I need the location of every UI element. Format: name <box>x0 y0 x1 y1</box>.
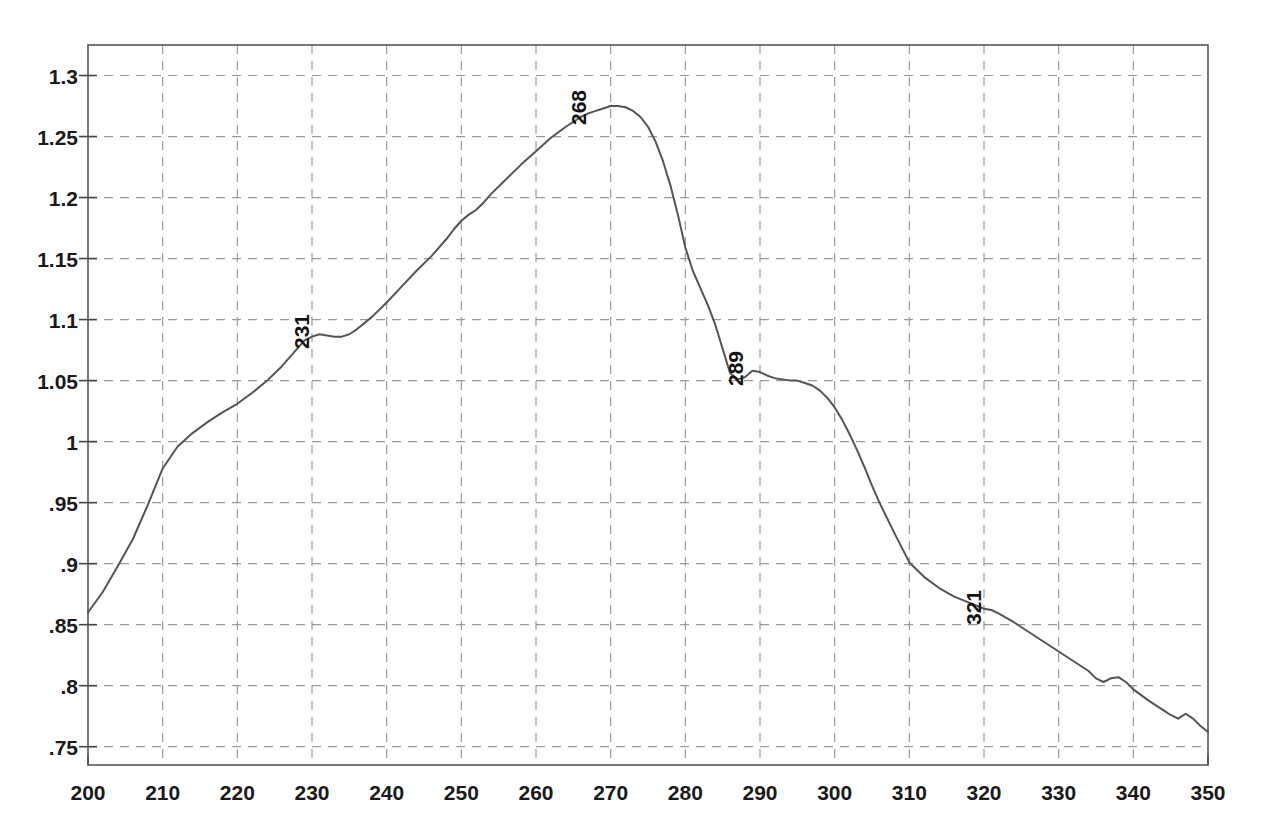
y-tick-label: .8 <box>10 675 78 696</box>
x-tick-label: 250 <box>444 782 479 803</box>
y-tick-label: 1.2 <box>10 187 78 208</box>
x-tick-label: 300 <box>817 782 852 803</box>
peak-annotation-label: 231 <box>291 314 312 349</box>
y-tick-label: .95 <box>10 492 78 513</box>
x-tick-label: 350 <box>1190 782 1225 803</box>
data-line-absorbance <box>88 106 1208 732</box>
x-tick-label: 290 <box>742 782 777 803</box>
x-tick-label: 220 <box>220 782 255 803</box>
peak-annotation-label: 268 <box>568 90 589 125</box>
plot-frame <box>88 45 1208 765</box>
y-tick-label: 1.25 <box>10 126 78 147</box>
x-tick-label: 310 <box>892 782 927 803</box>
y-tick-label: 1 <box>10 431 78 452</box>
y-tick-label: 1.15 <box>10 248 78 269</box>
y-tick-label: 1.05 <box>10 370 78 391</box>
x-tick-label: 240 <box>369 782 404 803</box>
gridlines-horizontal <box>88 76 1208 747</box>
line-chart-plot <box>0 0 1267 840</box>
y-tick-label: .75 <box>10 736 78 757</box>
peak-annotation-label: 321 <box>963 590 984 625</box>
x-tick-label: 330 <box>1041 782 1076 803</box>
y-tick-label: .9 <box>10 553 78 574</box>
peak-annotation-label: 289 <box>725 351 746 386</box>
x-tick-label: 280 <box>668 782 703 803</box>
x-tick-label: 260 <box>518 782 553 803</box>
x-tick-label: 340 <box>1116 782 1151 803</box>
x-tick-label: 320 <box>966 782 1001 803</box>
x-tick-label: 210 <box>145 782 180 803</box>
y-tick-label: 1.3 <box>10 65 78 86</box>
x-tick-label: 200 <box>70 782 105 803</box>
gridlines-vertical <box>163 45 1134 765</box>
axis-ticks <box>79 76 1208 765</box>
x-tick-label: 230 <box>294 782 329 803</box>
y-tick-label: .85 <box>10 614 78 635</box>
x-tick-label: 270 <box>593 782 628 803</box>
chart-container: .75.8.85.9.9511.051.11.151.21.251.3 2002… <box>0 0 1267 840</box>
y-tick-label: 1.1 <box>10 309 78 330</box>
